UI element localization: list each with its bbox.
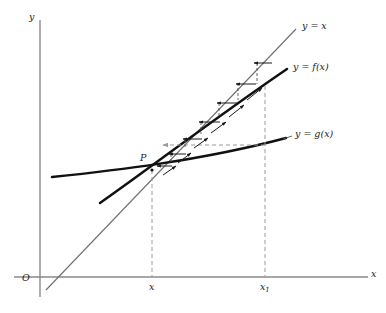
x-axis-label: x <box>371 268 376 279</box>
dashed-guides <box>152 86 265 277</box>
origin-label: O <box>22 272 30 283</box>
cobweb-arrow-up-4 <box>211 122 226 133</box>
figure-canvas: y x O x x1 y = x y = f(x) y = g(x) P <box>0 0 386 313</box>
fixed-point-label: P <box>140 152 146 163</box>
tick-label-x: x <box>149 281 154 292</box>
cobweb-arrow-up-1 <box>163 166 176 175</box>
f-curve-label: y = f(x) <box>293 61 329 72</box>
fixed-point-dot <box>150 168 153 171</box>
tick-label-x1: x1 <box>260 281 270 294</box>
diagram-svg <box>0 0 386 313</box>
g-curve-label: y = g(x) <box>295 128 333 139</box>
y-axis-label: y <box>29 11 34 22</box>
identity-line-label: y = x <box>302 20 327 31</box>
tick-label-x1-subscript: 1 <box>265 286 269 294</box>
f-curve <box>100 69 287 203</box>
